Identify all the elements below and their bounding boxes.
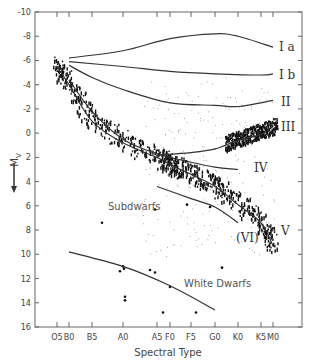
svg-text:MV: MV	[9, 153, 23, 167]
hr-diagram: -10-8-6-4-20246810121416 O5B0B5A0A5F0F5G…	[0, 0, 309, 363]
label-ii: II	[281, 95, 291, 109]
x-tick-label: M0	[267, 332, 279, 342]
y-tick-label: 0	[26, 128, 31, 138]
x-tick-label: O5	[51, 332, 63, 342]
y-tick-label: 12	[21, 274, 31, 284]
x-axis-ticks: O5B0B5A0A5F0F5G0K0K5M0	[51, 12, 279, 342]
y-tick-label: 6	[26, 201, 31, 211]
label-ia: I a	[279, 40, 295, 54]
y-tick-label: 8	[26, 225, 31, 235]
star-points	[53, 57, 279, 314]
curve-ia	[69, 34, 273, 58]
x-axis-title: Spectral Type	[134, 347, 201, 358]
y-tick-label: 2	[26, 152, 31, 162]
y-tick-label: -2	[23, 104, 31, 114]
x-tick-label: F0	[165, 332, 175, 342]
y-tick-label: -6	[23, 55, 31, 65]
x-tick-label: G0	[209, 332, 220, 342]
luminosity-class-curves	[57, 34, 273, 310]
label-vi: (VI)	[236, 231, 259, 245]
label-v: V	[280, 224, 290, 238]
y-axis-title: MV	[9, 153, 23, 167]
y-tick-label: -4	[23, 80, 31, 90]
x-tick-label: K0	[233, 332, 243, 342]
x-tick-label: A5	[152, 332, 163, 342]
x-tick-label: B5	[87, 332, 98, 342]
label-iii: III	[281, 120, 295, 134]
x-tick-label: B0	[64, 332, 75, 342]
y-tick-label: 14	[21, 298, 31, 308]
y-tick-label: -10	[18, 7, 31, 17]
y-tick-label: 4	[26, 177, 31, 187]
label-iv: IV	[254, 161, 268, 175]
y-tick-label: 16	[21, 322, 31, 332]
y-tick-label: 10	[21, 249, 31, 259]
curve--vi-	[157, 186, 238, 222]
curve-ib	[69, 62, 273, 75]
label-subdwarfs: Subdwarfs	[108, 201, 161, 212]
label-ib: I b	[279, 68, 296, 82]
x-tick-label: K5	[256, 332, 266, 342]
x-tick-label: A0	[118, 332, 129, 342]
label-white-dwarfs: White Dwarfs	[184, 278, 251, 289]
x-tick-label: F5	[186, 332, 196, 342]
y-tick-label: -8	[23, 31, 31, 41]
